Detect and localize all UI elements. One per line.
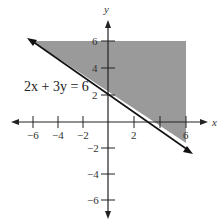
x-axis-label: x bbox=[211, 116, 217, 128]
x-tick-label: 2 bbox=[131, 129, 137, 141]
x-axis-arrow-left-icon bbox=[11, 119, 19, 125]
y-tick-label: 4 bbox=[92, 62, 98, 74]
y-axis-arrow-up-icon bbox=[105, 20, 111, 28]
x-tick-label: −6 bbox=[27, 129, 39, 141]
x-tick-label: −4 bbox=[52, 129, 64, 141]
y-axis-arrow-down-icon bbox=[105, 211, 111, 219]
y-axis-label: y bbox=[103, 3, 109, 15]
y-tick-label: 6 bbox=[92, 35, 98, 47]
y-tick-label: −4 bbox=[87, 168, 99, 180]
y-tick-label: 2 bbox=[92, 89, 98, 101]
y-tick-label: −6 bbox=[87, 194, 99, 206]
equation-label: 2x + 3y = 6 bbox=[24, 79, 89, 94]
x-axis-arrow-right-icon bbox=[200, 119, 208, 125]
x-tick-label: −2 bbox=[77, 129, 89, 141]
line-arrow-upleft-icon bbox=[27, 38, 37, 46]
inequality-graph: y x 2x + 3y = 6 −6 −4 −2 2 6 6 4 2 −2 −4… bbox=[0, 0, 224, 221]
x-tick-label: 6 bbox=[183, 129, 189, 141]
y-tick-label: −2 bbox=[87, 142, 99, 154]
